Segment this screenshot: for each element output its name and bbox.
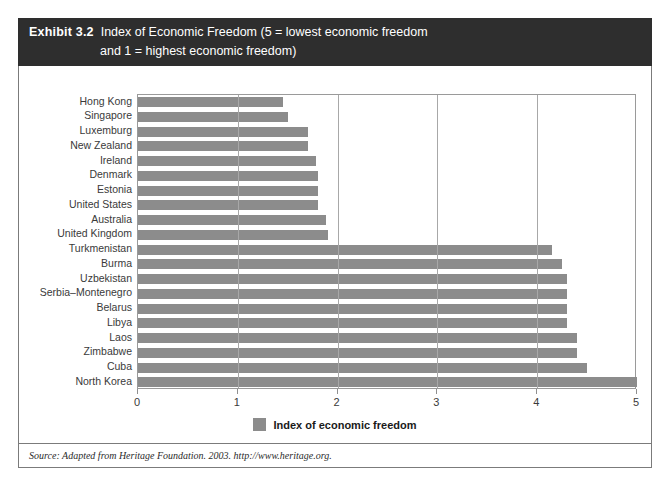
bar-row — [138, 316, 635, 331]
bar — [138, 333, 577, 343]
exhibit-title-line-2: and 1 = highest economic freedom) — [29, 42, 642, 61]
y-axis-label: Denmark — [19, 168, 132, 180]
bar-row — [138, 169, 635, 184]
bar — [138, 289, 567, 299]
source-text: Source: Adapted from Heritage Foundation… — [29, 450, 332, 461]
y-axis-label: United Kingdom — [19, 227, 132, 239]
gridline — [437, 95, 438, 388]
y-axis-label: North Korea — [19, 375, 132, 387]
bar — [138, 363, 587, 373]
y-axis-label: Zimbabwe — [19, 345, 132, 357]
bar-row — [138, 287, 635, 302]
bar — [138, 97, 283, 107]
bar-row — [138, 139, 635, 154]
y-axis-label: New Zealand — [19, 139, 132, 151]
y-axis-label: Singapore — [19, 109, 132, 121]
bar-row — [138, 110, 635, 125]
y-axis-label: Uzbekistan — [19, 272, 132, 284]
bar — [138, 112, 288, 122]
bar — [138, 186, 318, 196]
x-axis-tick-label: 3 — [433, 396, 439, 408]
bar — [138, 200, 318, 210]
bar — [138, 274, 567, 284]
source-bar: Source: Adapted from Heritage Foundation… — [19, 443, 651, 467]
bar-row — [138, 243, 635, 258]
y-axis-label: Burma — [19, 257, 132, 269]
y-axis-label: Laos — [19, 331, 132, 343]
y-axis-label: Turkmenistan — [19, 242, 132, 254]
bar-row — [138, 257, 635, 272]
bar — [138, 304, 567, 314]
x-axis-tick — [137, 389, 138, 394]
bar — [138, 171, 318, 181]
exhibit-figure: Exhibit 3.2 Index of Economic Freedom (5… — [18, 18, 652, 468]
gridline — [238, 95, 239, 388]
gridline — [537, 95, 538, 388]
y-axis-label: Libya — [19, 316, 132, 328]
x-axis-tick-label: 2 — [334, 396, 340, 408]
bar-rows — [138, 95, 635, 388]
y-axis-label: Serbia–Montenegro — [19, 286, 132, 298]
x-axis-tick — [337, 389, 338, 394]
y-axis-label: Hong Kong — [19, 95, 132, 107]
bar — [138, 259, 562, 269]
bar — [138, 156, 316, 166]
bar-row — [138, 95, 635, 110]
exhibit-title-line-1: Exhibit 3.2 Index of Economic Freedom (5… — [29, 23, 642, 42]
x-axis-tick-label: 5 — [633, 396, 639, 408]
x-axis-tick — [636, 389, 637, 394]
bar-row — [138, 228, 635, 243]
exhibit-number: Exhibit 3.2 — [29, 25, 94, 39]
figure-frame: Hong KongSingaporeLuxemburgNew ZealandIr… — [18, 66, 652, 468]
y-axis-label: Estonia — [19, 183, 132, 195]
bar-row — [138, 346, 635, 361]
chart-canvas: Hong KongSingaporeLuxemburgNew ZealandIr… — [19, 66, 651, 467]
bar-row — [138, 154, 635, 169]
bar — [138, 215, 326, 225]
bar — [138, 348, 577, 358]
gridline — [338, 95, 339, 388]
bar — [138, 230, 328, 240]
bar-row — [138, 375, 635, 390]
bar-row — [138, 361, 635, 376]
y-axis-label: Ireland — [19, 154, 132, 166]
x-axis-tick-label: 0 — [134, 396, 140, 408]
y-axis-label: Australia — [19, 213, 132, 225]
bar-row — [138, 272, 635, 287]
y-axis-label: Belarus — [19, 301, 132, 313]
plot-area — [137, 94, 636, 389]
bar — [138, 127, 308, 137]
bar-row — [138, 302, 635, 317]
bar-row — [138, 198, 635, 213]
y-axis-label: Cuba — [19, 360, 132, 372]
bar-row — [138, 213, 635, 228]
bar-row — [138, 125, 635, 140]
y-axis-label: United States — [19, 198, 132, 210]
bar — [138, 245, 552, 255]
y-axis-label: Luxemburg — [19, 124, 132, 136]
exhibit-title-text: Index of Economic Freedom (5 = lowest ec… — [101, 25, 428, 39]
bar — [138, 141, 308, 151]
x-axis-tick — [536, 389, 537, 394]
bar — [138, 377, 637, 387]
bar-row — [138, 331, 635, 346]
x-axis-tick — [237, 389, 238, 394]
legend-swatch-icon — [253, 418, 266, 431]
y-axis-category-labels: Hong KongSingaporeLuxemburgNew ZealandIr… — [19, 94, 132, 389]
x-axis-tick-label: 1 — [234, 396, 240, 408]
chart-legend: Index of economic freedom — [19, 418, 651, 431]
bar — [138, 318, 567, 328]
bar-row — [138, 184, 635, 199]
x-axis-tick — [436, 389, 437, 394]
exhibit-title-band: Exhibit 3.2 Index of Economic Freedom (5… — [18, 18, 652, 66]
x-axis-tick-label: 4 — [533, 396, 539, 408]
legend-label: Index of economic freedom — [273, 419, 416, 431]
